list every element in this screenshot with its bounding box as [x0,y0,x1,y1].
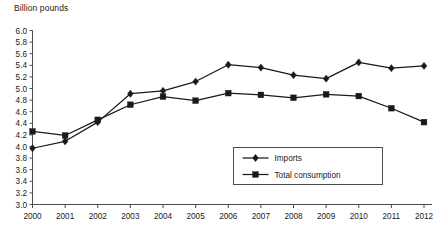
data-point-marker [388,105,394,111]
data-point-marker [356,59,362,66]
x-axis-tick-label: 2009 [317,212,336,221]
series-2-square [30,90,427,138]
data-point-marker [291,95,297,101]
y-axis-tick-label: 5.0 [16,85,28,94]
x-axis-tick-label: 2004 [154,212,173,221]
y-axis-tick-label: 4.0 [16,143,28,152]
y-axis-tick-label: 5.2 [16,73,28,82]
x-axis-tick-label: 2008 [284,212,303,221]
series-1-diamond [30,59,427,152]
data-point-marker [62,133,68,139]
data-point-marker [193,78,199,85]
data-point-marker [258,92,264,98]
y-axis-tick-label: 6.0 [16,27,28,36]
legend-marker [253,172,259,178]
data-point-marker [388,65,394,72]
data-point-marker [225,61,231,68]
chart-legend: ImportsTotal consumption [234,148,383,185]
x-axis-tick-label: 2007 [252,212,271,221]
y-axis-tick-label: 5.6 [16,50,28,59]
data-point-marker [356,93,362,99]
y-axis-tick-label: 3.4 [16,177,28,186]
data-point-marker [127,102,133,108]
legend-item-label: Imports [275,154,302,163]
data-point-marker [323,91,329,97]
y-axis-tick-label: 5.8 [16,38,28,47]
y-axis-tick-label: 4.4 [16,119,28,128]
data-point-marker [30,145,36,152]
data-point-marker [30,129,36,135]
data-point-marker [291,72,297,79]
y-axis-tick-label: 4.2 [16,131,28,140]
data-point-marker [323,75,329,82]
x-axis-tick-label: 2005 [187,212,206,221]
y-axis-tick-label: 5.4 [16,61,28,70]
series-line [33,93,425,135]
x-axis-tick-label: 2010 [350,212,369,221]
data-point-marker [62,138,68,145]
data-point-marker [225,90,231,96]
line-chart: Billion pounds 3.03.23.43.63.84.04.24.44… [0,0,439,234]
x-axis-tick-label: 2001 [56,212,75,221]
y-axis-tick-label: 3.8 [16,154,28,163]
x-axis-tick-label: 2003 [121,212,140,221]
y-axis-tick-label: 4.8 [16,96,28,105]
y-axis-tick-label: 3.6 [16,166,28,175]
data-point-marker [95,117,101,123]
data-point-marker [193,98,199,104]
series-line [33,62,425,148]
y-axis-tick-label: 3.2 [16,189,28,198]
y-axis-tick-label: 3.0 [16,201,28,210]
data-point-marker [160,87,166,94]
y-axis-tick-label: 4.6 [16,108,28,117]
x-axis-tick-label: 2002 [89,212,108,221]
chart-plot-area: 3.03.23.43.63.84.04.24.44.64.85.05.25.45… [0,0,439,234]
x-axis-tick-label: 2012 [415,212,434,221]
x-axis-tick-label: 2011 [383,212,401,221]
legend-item-label: Total consumption [275,171,341,180]
data-point-marker [421,119,427,125]
data-point-marker [258,64,264,71]
data-point-marker [421,62,427,69]
x-axis-tick-label: 2006 [219,212,238,221]
x-axis-tick-label: 2000 [23,212,42,221]
data-point-marker [160,94,166,100]
